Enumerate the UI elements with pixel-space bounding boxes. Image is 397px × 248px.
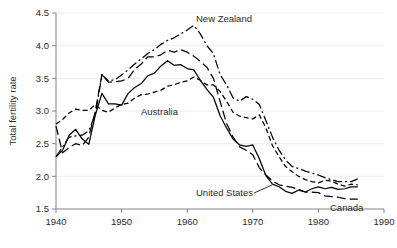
- x-axis-tick-label: 1960: [177, 216, 198, 227]
- chart-canvas: 1.52.02.53.03.54.04.51940195019601970198…: [0, 0, 397, 248]
- axis-title-layer: Total fertility rate: [7, 76, 18, 145]
- y-axis-tick-label: 1.5: [36, 203, 49, 214]
- x-axis-tick-label: 1950: [111, 216, 132, 227]
- y-axis-tick-label: 4.0: [36, 40, 49, 51]
- annotations-layer: New ZealandAustraliaUnited StatesCanada: [141, 13, 364, 213]
- fertility-rate-chart: 1.52.02.53.03.54.04.51940195019601970198…: [0, 0, 397, 248]
- y-axis-tick-label: 3.5: [36, 73, 49, 84]
- series-annotation-new-zealand: New Zealand: [196, 13, 252, 24]
- y-axis-title: Total fertility rate: [7, 76, 18, 145]
- series-line-new-zealand: [56, 25, 358, 181]
- series-annotation-canada: Canada: [330, 202, 364, 213]
- x-axis-tick-label: 1980: [308, 216, 329, 227]
- annotation-leader-united-states: [254, 185, 272, 193]
- y-axis-tick-label: 4.5: [36, 7, 49, 18]
- axes-layer: [52, 13, 384, 213]
- series-annotation-australia: Australia: [141, 106, 179, 117]
- series-annotation-united-states: United States: [196, 187, 253, 198]
- series-layer: [56, 25, 358, 199]
- y-axis-tick-label: 2.5: [36, 138, 49, 149]
- series-line-canada: [56, 50, 358, 200]
- x-axis-tick-label: 1970: [242, 216, 263, 227]
- x-axis-tick-label: 1940: [45, 216, 66, 227]
- y-axis-tick-label: 3.0: [36, 105, 49, 116]
- y-axis-tick-label: 2.0: [36, 171, 49, 182]
- x-axis-tick-label: 1990: [373, 216, 394, 227]
